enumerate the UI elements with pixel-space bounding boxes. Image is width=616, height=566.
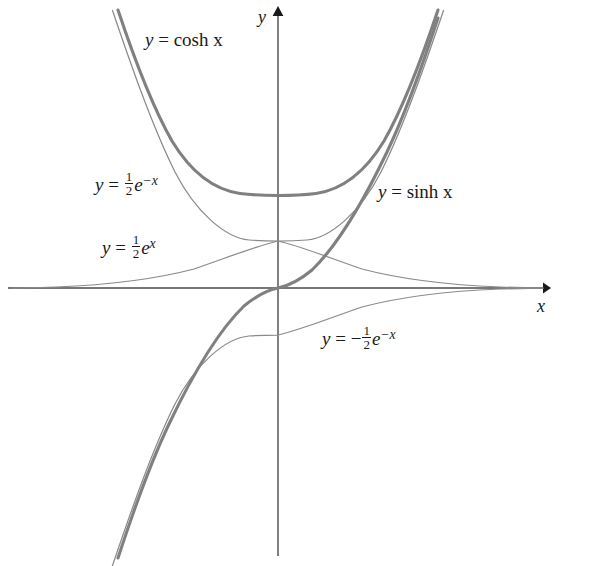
annotation-sinh-rhs: sinh x [407, 181, 453, 202]
annotation-half-exp-neg-x-base: e [134, 174, 142, 195]
annotation-half-exp-pos-x-equals: = [115, 237, 126, 258]
annotation-half-exp-neg-x: y = 12e−x [95, 170, 158, 198]
fraction-numerator: 1 [125, 170, 134, 183]
fraction-denominator: 2 [132, 246, 141, 260]
annotation-cosh: y = cosh x [145, 30, 223, 49]
annotation-neg-half-exp-neg-x-minus: − [351, 328, 362, 349]
annotation-neg-half-exp-neg-x: y = −12e−x [322, 324, 396, 352]
fraction-numerator: 1 [132, 233, 141, 246]
hyperbolic-functions-figure: y x y = cosh x y = 12e−x y = 12ex y = si… [0, 0, 616, 566]
annotation-sinh: y = sinh x [378, 182, 453, 201]
annotation-cosh-rhs: cosh x [174, 29, 223, 50]
annotation-half-exp-pos-x: y = 12ex [102, 233, 156, 261]
annotation-half-exp-pos-x-base: e [141, 237, 149, 258]
annotation-sinh-equals: = [391, 181, 402, 202]
fraction-denominator: 2 [362, 337, 371, 351]
x-axis-arrowhead [543, 283, 551, 294]
annotation-neg-half-exp-neg-x-equals: = [335, 328, 346, 349]
annotation-half-exp-pos-x-exponent: x [150, 236, 156, 251]
annotation-half-exp-neg-x-equals: = [108, 174, 119, 195]
fraction-one-half: 12 [125, 170, 134, 198]
y-axis-arrowhead [273, 6, 284, 16]
fraction-numerator: 1 [362, 324, 371, 337]
x-axis-label: x [537, 297, 545, 315]
fraction-denominator: 2 [125, 183, 134, 197]
y-axis-label: y [258, 8, 266, 26]
annotation-cosh-equals: = [158, 29, 169, 50]
annotation-half-exp-neg-x-exponent: −x [143, 173, 158, 188]
annotation-neg-half-exp-neg-x-exponent: −x [380, 327, 395, 342]
fraction-one-half: 12 [362, 324, 371, 352]
graph-canvas [0, 0, 616, 566]
fraction-one-half: 12 [132, 233, 141, 261]
axes-group [8, 6, 551, 556]
